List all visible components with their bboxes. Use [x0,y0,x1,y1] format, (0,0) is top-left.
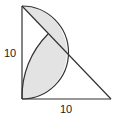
geometry-figure: 10 10 [0,0,120,119]
bottom-side-label: 10 [60,103,72,115]
left-side-label: 10 [4,47,16,59]
